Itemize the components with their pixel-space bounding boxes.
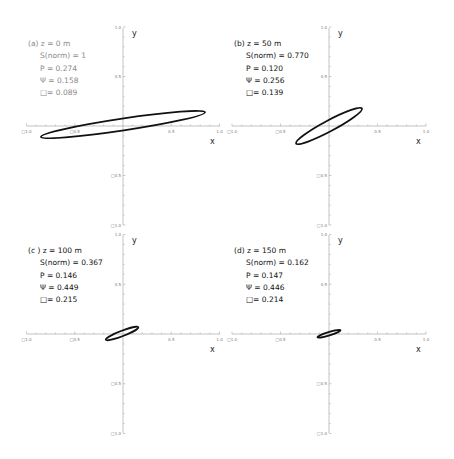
y-tick-label: 1.0 (321, 232, 328, 237)
x-axis-label: x (416, 345, 421, 354)
panel-parameter: □= 0.139 (246, 88, 283, 97)
x-tick-label: □0.5 (70, 129, 81, 134)
panel-parameter: □= 0.089 (40, 88, 77, 97)
y-tick-label: □0.5 (317, 173, 328, 178)
panel-parameter: Ψ = 0.449 (40, 283, 79, 292)
panel-title: (a) z = 0 m (28, 39, 70, 48)
x-tick-label: 1.0 (423, 337, 430, 342)
panel-parameter: Ψ = 0.158 (40, 76, 79, 85)
x-axis-label: x (210, 137, 215, 146)
panel-title: (c ) z = 100 m (28, 246, 82, 255)
panel-title: (d) z = 150 m (234, 246, 286, 255)
y-tick-label: 0.5 (321, 74, 328, 79)
y-axis-label: y (132, 236, 137, 245)
y-tick-label: □0.5 (317, 381, 328, 386)
x-tick-label: 0.5 (168, 129, 175, 134)
y-tick-label: 1.0 (321, 25, 328, 30)
panel-b: □1.0□0.50.51.01.00.5□0.5□1.0xy(b) z = 50… (227, 25, 430, 228)
panel-parameter: P = 0.120 (246, 64, 283, 73)
x-tick-label: □0.5 (275, 129, 286, 134)
y-axis-label: y (338, 29, 343, 38)
x-tick-label: 0.5 (374, 337, 381, 342)
y-tick-label: □0.5 (111, 173, 122, 178)
x-tick-label: 1.0 (216, 129, 223, 134)
panel-parameter: S(norm) = 0.367 (40, 258, 103, 267)
y-tick-label: 1.0 (115, 232, 122, 237)
x-tick-label: □1.0 (21, 129, 32, 134)
y-axis-label: y (132, 29, 137, 38)
panel-parameter: S(norm) = 1 (40, 51, 86, 60)
y-tick-label: □0.5 (111, 381, 122, 386)
y-tick-label: 0.5 (115, 74, 122, 79)
x-tick-label: 1.0 (216, 337, 223, 342)
panel-c: □1.0□0.50.51.01.00.5□0.5□1.0xy(c ) z = 1… (21, 232, 223, 436)
panel-parameter: P = 0.274 (40, 64, 77, 73)
panel-d: □1.0□0.50.51.01.00.5□0.5□1.0xy(d) z = 15… (227, 232, 430, 436)
panel-parameter: S(norm) = 0.770 (246, 51, 309, 60)
panel-parameter: P = 0.146 (40, 271, 77, 280)
polarization-ellipse (105, 325, 139, 342)
panel-parameter: Ψ = 0.256 (246, 76, 285, 85)
panel-a: □1.0□0.50.51.01.00.5□0.5□1.0xy(a) z = 0 … (21, 25, 223, 228)
x-axis-label: x (416, 137, 421, 146)
x-tick-label: 0.5 (374, 129, 381, 134)
y-tick-label: □1.0 (317, 223, 328, 228)
panel-parameter: S(norm) = 0.162 (246, 258, 309, 267)
x-tick-label: □1.0 (21, 337, 32, 342)
y-tick-label: 1.0 (115, 25, 122, 30)
x-tick-label: 0.5 (168, 337, 175, 342)
panel-parameter: □= 0.215 (40, 295, 77, 304)
panel-title: (b) z = 50 m (234, 39, 281, 48)
x-tick-label: □1.0 (227, 129, 238, 134)
polarization-ellipse-figure: □1.0□0.50.51.01.00.5□0.5□1.0xy(a) z = 0 … (0, 0, 454, 459)
panel-parameter: P = 0.147 (246, 271, 283, 280)
x-axis-label: x (210, 345, 215, 354)
x-tick-label: 1.0 (423, 129, 430, 134)
y-tick-label: □1.0 (317, 431, 328, 436)
panel-parameter: Ψ = 0.446 (246, 283, 285, 292)
y-axis-label: y (338, 236, 343, 245)
x-tick-label: □1.0 (227, 337, 238, 342)
x-tick-label: □0.5 (70, 337, 81, 342)
x-tick-label: □0.5 (275, 337, 286, 342)
panel-parameter: □= 0.214 (246, 295, 283, 304)
y-tick-label: □1.0 (111, 223, 122, 228)
y-tick-label: 0.5 (321, 282, 328, 287)
y-tick-label: □1.0 (111, 431, 122, 436)
y-tick-label: 0.5 (115, 282, 122, 287)
